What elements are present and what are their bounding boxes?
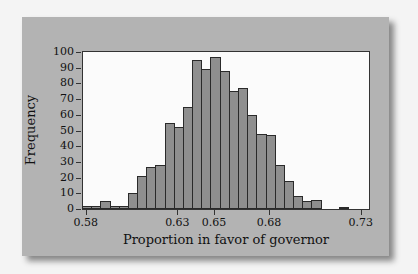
x-tick-mark <box>269 210 270 215</box>
y-tick-label: 70 <box>48 93 74 104</box>
y-tick-label: 100 <box>48 46 74 57</box>
x-tick-mark <box>177 210 178 215</box>
y-tick-label: 60 <box>48 109 74 120</box>
y-tick-label: 80 <box>48 77 74 88</box>
x-tick-mark <box>361 210 362 215</box>
y-tick-label: 40 <box>48 140 74 151</box>
histogram-bar <box>311 200 321 209</box>
y-tick-label: 50 <box>48 125 74 136</box>
x-tick-label: 0.73 <box>341 216 381 229</box>
plot-area <box>82 51 370 210</box>
y-tick-mark <box>76 178 81 179</box>
y-axis-label: Frequency <box>23 95 38 165</box>
y-tick-label: 20 <box>48 172 74 183</box>
y-tick-mark <box>76 83 81 84</box>
y-tick-mark <box>76 115 81 116</box>
x-tick-label: 0.58 <box>66 216 106 229</box>
x-tick-label: 0.68 <box>249 216 289 229</box>
y-tick-label: 30 <box>48 156 74 167</box>
x-tick-mark <box>86 210 87 215</box>
y-tick-mark <box>76 52 81 53</box>
y-tick-mark <box>76 131 81 132</box>
histogram-bar <box>339 207 349 209</box>
y-tick-mark <box>76 162 81 163</box>
y-tick-mark <box>76 99 81 100</box>
y-tick-label: 10 <box>48 187 74 198</box>
y-tick-mark <box>76 209 81 210</box>
y-tick-label: 0 <box>48 203 74 214</box>
x-tick-label: 0.63 <box>157 216 197 229</box>
y-tick-mark <box>76 68 81 69</box>
x-axis-label: Proportion in favor of governor <box>82 232 370 247</box>
y-tick-mark <box>76 193 81 194</box>
y-tick-mark <box>76 146 81 147</box>
x-tick-label: 0.65 <box>194 216 234 229</box>
x-tick-mark <box>214 210 215 215</box>
y-tick-label: 90 <box>48 62 74 73</box>
